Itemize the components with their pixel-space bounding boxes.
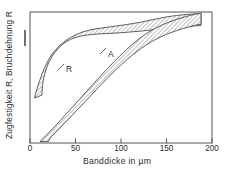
x-axis-ticks xyxy=(30,139,212,144)
x-tick-label-200: 200 xyxy=(197,144,227,153)
curve-label-a: A xyxy=(108,49,114,59)
x-tick-label-0: 0 xyxy=(15,144,45,153)
x-tick-label-150: 150 xyxy=(152,144,182,153)
x-axis-label: Banddicke in µm xyxy=(0,156,234,166)
x-tick-label-100: 100 xyxy=(106,144,136,153)
x-tick-label-50: 50 xyxy=(61,144,91,153)
curve-label-r: R xyxy=(66,64,72,74)
chart-figure: Zugfestigkeit R, Bruchdehnung R Banddick… xyxy=(0,0,234,173)
